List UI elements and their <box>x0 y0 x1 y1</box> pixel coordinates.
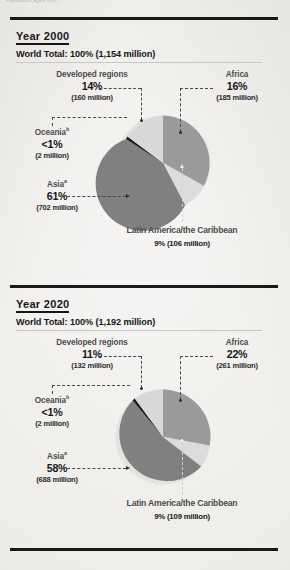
panel-2-world-total: World Total: 100% (1,192 million) <box>16 317 155 327</box>
label-asia-2000: Asiaa 61% (702 million) <box>14 178 100 212</box>
panel-1-header-rule <box>16 62 262 63</box>
clipped-caption: Population ages 60+... <box>6 0 60 3</box>
pie-chart-2020 <box>115 389 211 485</box>
figure-sheet: Population ages 60+... Year 2000 World T… <box>0 0 290 570</box>
panel-1-header: Year 2000 World Total: 100% (1,154 milli… <box>16 26 155 59</box>
label-developed-regions-2020: Developed regions 11% (132 million) <box>38 338 146 370</box>
panel-2-header: Year 2020 World Total: 100% (1,192 milli… <box>16 294 155 327</box>
panel-2-top-rule <box>10 285 278 288</box>
label-latin-america-2000: Latin America/the Caribbean 9% (106 mill… <box>98 225 266 248</box>
panel-1-world-total: World Total: 100% (1,154 million) <box>16 49 155 59</box>
label-africa-2020: Africa 22% (261 million) <box>196 338 278 370</box>
label-oceania-2020: Oceaniab <1% (2 million) <box>14 394 90 428</box>
label-latin-america-2020: Latin America/the Caribbean 9% (109 mill… <box>98 498 266 521</box>
label-africa-2000: Africa 16% (185 million) <box>196 70 278 102</box>
pie-chart-2000 <box>115 115 211 211</box>
panel-1-top-rule <box>10 17 278 20</box>
label-asia-2020: Asiaa 58% (688 million) <box>14 450 100 484</box>
figure-bottom-rule <box>10 548 278 551</box>
panel-2-year-title: Year 2020 <box>16 298 69 313</box>
label-oceania-2000: Oceaniab <1% (2 million) <box>14 126 90 160</box>
panel-2-header-rule <box>16 330 262 331</box>
panel-1-year-title: Year 2000 <box>16 30 69 45</box>
label-developed-regions-2000: Developed regions 14% (160 million) <box>38 70 146 102</box>
